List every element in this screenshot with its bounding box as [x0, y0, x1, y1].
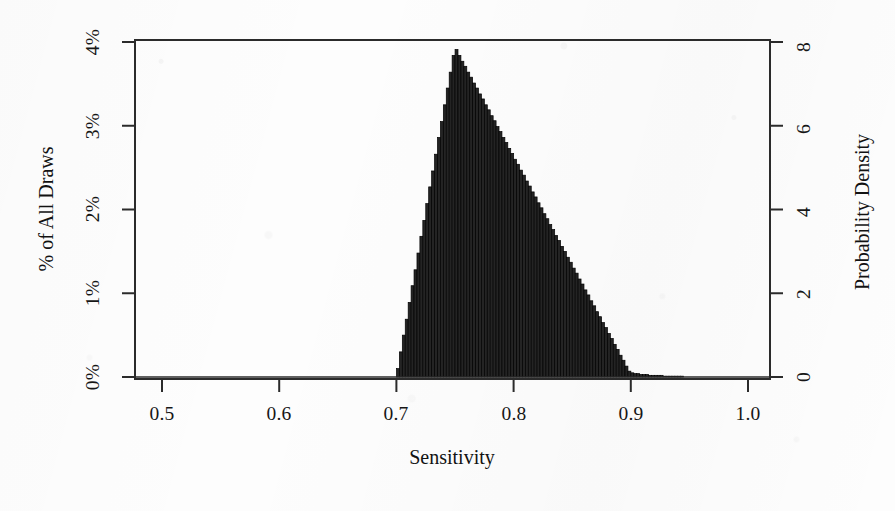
y-right-axis-title: Probability Density	[851, 134, 874, 290]
y-right-tick-label-3: 6	[793, 124, 815, 134]
histogram-bar	[423, 220, 426, 377]
histogram-bar	[581, 284, 584, 377]
histogram-bar	[602, 323, 605, 377]
histogram-bar	[396, 369, 399, 377]
x-tick-label-3: 0.8	[502, 403, 527, 425]
histogram-bar	[596, 312, 599, 377]
histogram-bar	[514, 159, 517, 377]
histogram-bar	[505, 143, 508, 378]
histogram-bar	[408, 302, 411, 377]
histogram-bar	[420, 236, 423, 377]
histogram-bar	[546, 219, 549, 377]
histogram-bar	[525, 181, 528, 377]
histogram-bar	[481, 99, 484, 377]
histogram-bar	[616, 349, 619, 377]
histogram-bar	[502, 137, 505, 377]
y-right-tick-label-0: 0	[793, 372, 815, 382]
histogram-bar	[578, 279, 581, 377]
histogram-bar	[405, 319, 408, 377]
histogram-bar	[628, 371, 631, 377]
histogram-bar	[440, 122, 443, 377]
histogram-bar	[604, 328, 607, 377]
histogram-bar	[511, 153, 514, 377]
plot-canvas	[0, 0, 895, 511]
histogram-bar	[563, 251, 566, 377]
histogram-bar	[540, 208, 543, 377]
y-left-tick-label-4: 4%	[82, 29, 104, 55]
histogram-bar	[575, 273, 578, 377]
x-tick-label-1: 0.6	[267, 403, 292, 425]
histogram-bar	[414, 270, 417, 377]
histogram-bar	[555, 235, 558, 377]
histogram-bar	[426, 204, 429, 377]
histogram-bar	[437, 137, 440, 377]
histogram-bars	[396, 50, 683, 377]
histogram-bar	[476, 88, 479, 377]
y-right-tick-label-1: 2	[793, 289, 815, 299]
histogram-bar	[622, 360, 625, 377]
histogram-bar	[517, 164, 520, 377]
x-tick-label-5: 1.0	[736, 403, 761, 425]
histogram-bar	[572, 268, 575, 377]
histogram-bar	[490, 116, 493, 377]
histogram-figure: 0.5 0.6 0.7 0.8 0.9 1.0 0% 1% 2% 3% 4% 0…	[0, 0, 895, 511]
histogram-bar	[402, 335, 405, 377]
histogram-bar	[499, 132, 502, 377]
histogram-bar	[552, 230, 555, 377]
histogram-bar	[613, 344, 616, 377]
histogram-bar	[399, 352, 402, 377]
histogram-bar	[566, 257, 569, 377]
histogram-bar	[411, 286, 414, 377]
histogram-bar	[449, 72, 452, 377]
y-left-tick-label-1: 1%	[82, 280, 104, 306]
histogram-bar	[429, 187, 432, 377]
histogram-bar	[484, 105, 487, 377]
histogram-bar	[455, 50, 458, 377]
histogram-bar	[587, 295, 590, 377]
x-axis-title: Sensitivity	[409, 446, 495, 469]
histogram-bar	[528, 186, 531, 377]
histogram-bar	[619, 355, 622, 377]
x-tick-label-2: 0.7	[384, 403, 409, 425]
histogram-bar	[417, 253, 420, 377]
histogram-bar	[435, 154, 438, 377]
histogram-bar	[534, 197, 537, 377]
y-left-tick-label-0: 0%	[82, 364, 104, 390]
histogram-bar	[473, 83, 476, 377]
histogram-bar	[584, 290, 587, 377]
histogram-bar	[569, 262, 572, 377]
x-tick-label-4: 0.9	[619, 403, 644, 425]
histogram-bar	[537, 203, 540, 377]
histogram-bar	[464, 66, 467, 377]
histogram-bar	[508, 148, 511, 377]
histogram-bar	[487, 110, 490, 377]
histogram-bar	[590, 301, 593, 377]
histogram-bar	[432, 171, 435, 377]
histogram-bar	[446, 88, 449, 377]
y-left-tick-label-2: 2%	[82, 196, 104, 222]
y-right-tick-label-4: 8	[793, 42, 815, 52]
histogram-bar	[610, 338, 613, 377]
histogram-bar	[543, 214, 546, 377]
histogram-bar	[452, 55, 455, 377]
histogram-bar	[496, 127, 499, 377]
histogram-bar	[467, 72, 470, 377]
y-left-tick-label-3: 3%	[82, 113, 104, 139]
histogram-bar	[531, 192, 534, 377]
histogram-bar	[479, 94, 482, 377]
histogram-bar	[520, 170, 523, 377]
x-tick-label-0: 0.5	[150, 403, 175, 425]
histogram-bar	[458, 55, 461, 377]
histogram-bar	[561, 246, 564, 377]
histogram-bar	[607, 333, 610, 377]
histogram-bar	[493, 121, 496, 377]
histogram-bar	[625, 366, 628, 377]
histogram-bar	[461, 61, 464, 377]
histogram-bar	[599, 317, 602, 377]
y-right-tick-label-2: 4	[793, 207, 815, 217]
histogram-bar	[470, 77, 473, 377]
histogram-bar	[549, 225, 552, 377]
histogram-bar	[593, 306, 596, 377]
y-left-axis-title: % of All Draws	[35, 147, 58, 272]
histogram-bar	[522, 175, 525, 377]
